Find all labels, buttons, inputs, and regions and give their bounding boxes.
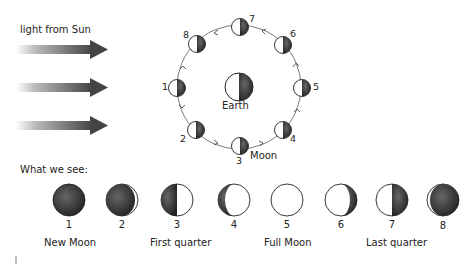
moon-label: Moon	[250, 150, 277, 161]
sunlight-arrow-middle	[16, 78, 108, 97]
orbit-num-6: 6	[290, 28, 296, 39]
orbit-moon-4	[275, 122, 292, 139]
phase-num-4: 4	[224, 219, 244, 230]
orbit-moon-5	[294, 80, 311, 97]
orbit-moon-1	[169, 80, 186, 97]
phase-name-first-quarter: First quarter	[150, 237, 211, 248]
earth-label: Earth	[222, 100, 249, 111]
orbit-num-3: 3	[236, 155, 242, 166]
orbit-moon-7	[232, 19, 249, 36]
what-we-see-heading: What we see:	[20, 164, 88, 175]
orbit-moon-8	[189, 36, 206, 53]
orbit-num-2: 2	[180, 133, 186, 144]
sunlight-label: light from Sun	[20, 24, 91, 35]
orbit-moon-2	[188, 122, 205, 139]
phase-num-8: 8	[433, 220, 453, 231]
orbit-num-1: 1	[162, 81, 168, 92]
sunlight-arrow-bottom	[16, 116, 108, 135]
sunlight-arrow-top	[16, 40, 108, 59]
phase-icon-4-gibbous	[218, 184, 250, 216]
phase-icon-6-gibbous	[325, 184, 357, 216]
phase-icon-5-full	[271, 184, 303, 216]
phase-num-2: 2	[112, 219, 132, 230]
orbit-num-5: 5	[313, 81, 319, 92]
orbit-moon-6	[275, 37, 292, 54]
orbit-num-7: 7	[249, 13, 255, 24]
phase-num-6: 6	[331, 219, 351, 230]
phase-icon-2-crescent	[106, 184, 138, 216]
earth-icon	[225, 73, 253, 101]
phase-name-last-quarter: Last quarter	[366, 237, 427, 248]
phase-icon-8-crescent	[427, 184, 459, 216]
phase-name-new-moon: New Moon	[44, 237, 96, 248]
phase-num-3: 3	[167, 219, 187, 230]
phase-name-full-moon: Full Moon	[264, 237, 311, 248]
orbit-moon-3	[232, 138, 249, 155]
phase-icon-1-new	[53, 184, 85, 216]
phase-icon-7-last-quarter	[376, 184, 408, 216]
orbit-num-8: 8	[183, 29, 189, 40]
phase-num-7: 7	[382, 219, 402, 230]
phase-icon-3-first-quarter	[161, 184, 193, 216]
phase-num-5: 5	[277, 219, 297, 230]
phase-num-1: 1	[59, 219, 79, 230]
orbit-num-4: 4	[290, 133, 296, 144]
